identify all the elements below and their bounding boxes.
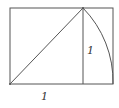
golden-rectangle-diagram (0, 0, 119, 108)
square-diagonal (10, 8, 83, 84)
horizontal-side-label: 1 (41, 91, 48, 102)
origin-point (9, 83, 11, 85)
apex-point (82, 7, 84, 9)
vertical-side-label: 1 (87, 45, 94, 56)
outer-rectangle (10, 8, 113, 84)
